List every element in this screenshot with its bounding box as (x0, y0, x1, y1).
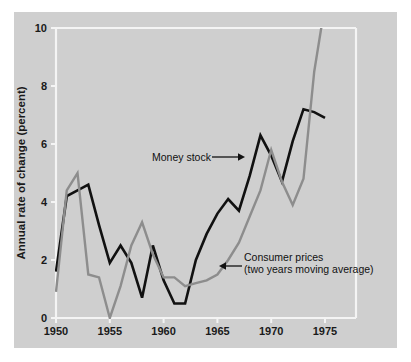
annotation-consumer-prices-label-line1: Consumer prices (244, 251, 323, 263)
x-tick-label: 1965 (205, 325, 229, 337)
x-tick-label: 1970 (259, 325, 283, 337)
x-axis-tick-labels: 195019551960196519701975 (44, 325, 337, 337)
y-tick-label: 2 (41, 254, 47, 266)
x-tick-label: 1950 (44, 325, 68, 337)
x-tick-label: 1975 (313, 325, 337, 337)
y-tick-label: 10 (35, 22, 47, 34)
y-tick-label: 8 (41, 80, 47, 92)
annotation-consumer-prices: Consumer prices (two years moving averag… (219, 251, 374, 275)
x-tick-label: 1955 (98, 325, 122, 337)
chart-figure: 0246810 195019551960196519701975 Annual … (0, 0, 411, 362)
annotation-money-stock-label: Money stock (152, 151, 212, 163)
annotation-consumer-prices-label-line2: (two years moving average) (244, 263, 374, 275)
y-tick-label: 0 (41, 312, 47, 324)
y-axis-title: Annual rate of change (percent) (15, 86, 27, 259)
y-tick-label: 6 (41, 138, 47, 150)
line-chart: 0246810 195019551960196519701975 Annual … (0, 0, 411, 362)
x-tick-label: 1960 (151, 325, 175, 337)
y-tick-label: 4 (41, 196, 48, 208)
y-axis-tick-labels: 0246810 (35, 22, 48, 324)
annotation-money-stock: Money stock (152, 151, 245, 163)
annotation-money-stock-arrowhead (238, 153, 245, 161)
